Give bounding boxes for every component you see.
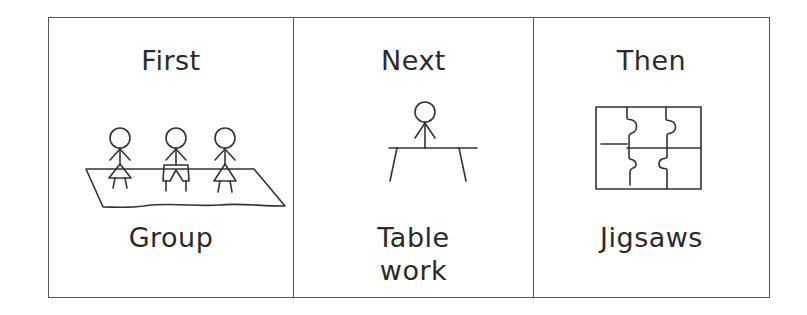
panel-caption-table-work: Table work bbox=[294, 221, 533, 287]
first-next-then-board: First bbox=[48, 17, 770, 298]
caption-line: Group bbox=[49, 221, 293, 254]
group-mat-icon bbox=[49, 18, 293, 299]
caption-line: Table bbox=[294, 221, 533, 254]
jigsaw-icon bbox=[534, 18, 772, 299]
panel-first: First bbox=[49, 18, 293, 297]
panel-caption-jigsaws: Jigsaws bbox=[534, 221, 769, 254]
panel-next: Next Table work bbox=[293, 18, 533, 297]
caption-line: work bbox=[294, 254, 533, 287]
panel-then: Then Jigsaws bbox=[533, 18, 769, 297]
caption-line: Jigsaws bbox=[534, 221, 769, 254]
panel-caption-group: Group bbox=[49, 221, 293, 254]
